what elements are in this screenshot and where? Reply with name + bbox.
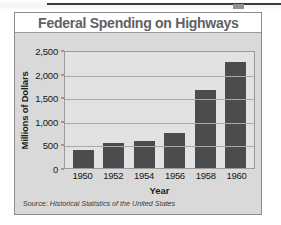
plot-area <box>64 51 255 169</box>
gridline <box>65 123 254 124</box>
y-axis-tick-label: 2,500 <box>35 46 58 57</box>
chart-body: Millions of Dollars 05001,0001,5002,0002… <box>15 33 261 214</box>
gridline <box>65 146 254 147</box>
x-axis-tick-label: 1952 <box>103 170 124 181</box>
chart-title: Federal Spending on Highways <box>38 15 239 31</box>
x-axis-tick-label: 1956 <box>164 170 185 181</box>
source-label: Source: <box>23 199 48 208</box>
x-axis-tick-label: 1958 <box>195 170 216 181</box>
chart-title-band: Federal Spending on Highways <box>15 13 261 33</box>
bar-1958 <box>195 90 216 168</box>
bar-1954 <box>134 141 155 168</box>
bar-group <box>65 52 254 168</box>
gridline <box>65 99 254 100</box>
bar-1960 <box>225 62 246 168</box>
scan-artifact-tick <box>233 4 244 9</box>
gridline <box>65 76 254 77</box>
source-text: Historical Statistics of the United Stat… <box>50 199 175 208</box>
y-axis-tick-label: 1,500 <box>35 93 58 104</box>
x-axis-tick-label: 1950 <box>72 170 93 181</box>
x-axis-tick-labels: 195019521954195619581960 <box>64 170 255 183</box>
bar-1950 <box>73 150 94 168</box>
bar-1956 <box>164 133 185 168</box>
y-axis-title-label: Millions of Dollars <box>19 71 30 149</box>
y-axis-tick-labels: 05001,0001,5002,0002,500 <box>29 51 61 169</box>
scan-artifact-rule <box>47 3 281 5</box>
source-note: Source: Historical Statistics of the Uni… <box>23 199 175 208</box>
x-axis-tick-label: 1960 <box>226 170 247 181</box>
x-axis-tick-label: 1954 <box>134 170 155 181</box>
y-axis-tick-label: 1,000 <box>35 116 58 127</box>
y-axis-tick-label: 500 <box>43 140 58 151</box>
chart-figure: Federal Spending on Highways Millions of… <box>14 12 262 215</box>
y-axis-tick-label: 0 <box>53 164 58 175</box>
x-axis-title: Year <box>64 185 255 196</box>
y-axis-tick-label: 2,000 <box>35 69 58 80</box>
